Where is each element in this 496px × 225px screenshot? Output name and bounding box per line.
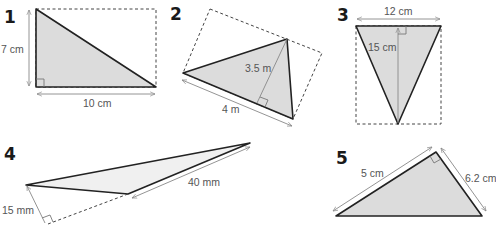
figure-3: 3 12 cm 15 cm (337, 5, 441, 124)
side-b-label: 6.2 cm (465, 172, 496, 184)
figure-2: 2 3.5 m 4 m (170, 4, 322, 126)
triangle (36, 9, 156, 87)
figure-5: 5 5 cm 6.2 cm (333, 147, 496, 216)
base-label: 12 cm (384, 5, 413, 17)
figure-number: 1 (4, 7, 16, 27)
base-label: 4 m (222, 103, 240, 115)
figure-number: 4 (4, 144, 16, 164)
figure-4: 4 15 mm 40 mm (2, 143, 250, 224)
figure-number: 2 (170, 4, 182, 24)
height-label: 7 cm (1, 43, 24, 55)
triangle-area-exercises: 1 7 cm 10 cm 2 3.5 m 4 m 3 12 cm 15 cm 4 (0, 0, 496, 225)
figure-1: 1 7 cm 10 cm (1, 7, 156, 109)
figure-number: 5 (336, 148, 348, 168)
height-label: 15 mm (2, 204, 34, 216)
extended-base (48, 194, 128, 224)
height-label: 15 cm (368, 41, 397, 53)
base-label: 10 cm (83, 97, 112, 109)
height-label: 3.5 m (245, 62, 272, 74)
base-label: 40 mm (188, 176, 220, 188)
side-a-label: 5 cm (361, 167, 384, 179)
figure-number: 3 (337, 5, 349, 25)
